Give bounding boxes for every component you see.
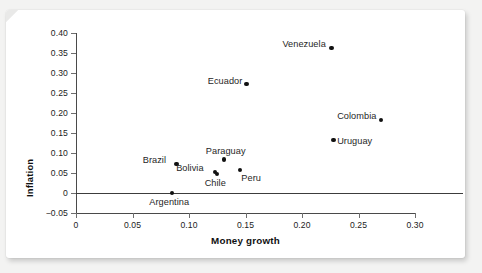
data-point-peru [238,168,242,172]
y-axis-tick [71,73,76,74]
y-axis-tick [71,93,76,94]
data-point-label-venezuela: Venezuela [282,39,325,49]
data-point-label-colombia: Colombia [337,111,376,121]
x-axis-tick [302,213,303,218]
x-axis-tick [359,213,360,218]
data-point-chile [215,172,219,176]
y-axis-tick-label: 0.30 [28,68,68,78]
x-axis-tick [246,213,247,218]
x-axis-tick-label: 0.30 [395,220,435,230]
y-axis-tick-label: 0 [28,188,68,198]
x-axis-tick-label: 0.25 [339,220,379,230]
y-axis-tick [71,113,76,114]
scatter-plot: Inflation Money growth −0.0500.050.100.1… [0,0,482,273]
y-axis-spine [76,33,77,213]
data-point-label-paraguay: Paraguay [206,146,246,156]
x-axis-tick-label: 0.15 [226,220,266,230]
x-axis-tick-label: 0 [56,220,96,230]
y-axis-tick-label: 0.05 [28,168,68,178]
x-axis-tick [133,213,134,218]
data-point-paraguay [222,157,226,161]
y-axis-tick [71,153,76,154]
data-point-label-ecuador: Ecuador [208,76,243,86]
data-point-label-argentina: Argentina [149,197,189,207]
data-point-uruguay [331,138,335,142]
y-axis-tick [71,173,76,174]
x-axis-tick [189,213,190,218]
y-axis-tick [71,193,76,194]
x-axis-tick [415,213,416,218]
y-axis-tick [71,133,76,134]
zero-reference-line [76,193,463,194]
y-axis-tick [71,53,76,54]
y-axis-tick-label: −0.05 [28,208,68,218]
x-axis-tick-label: 0.10 [169,220,209,230]
x-axis-tick-label: 0.05 [113,220,153,230]
y-axis-tick-label: 0.25 [28,88,68,98]
data-point-argentina [170,191,174,195]
data-point-label-chile: Chile [205,178,226,188]
data-point-label-brazil: Brazil [143,155,166,165]
data-point-label-uruguay: Uruguay [337,136,372,146]
y-axis-tick-label: 0.35 [28,48,68,58]
x-axis-tick-label: 0.20 [282,220,322,230]
y-axis-tick-label: 0.40 [28,28,68,38]
data-point-label-bolivia: Bolivia [176,163,203,173]
figure-background: Inflation Money growth −0.0500.050.100.1… [0,0,482,273]
y-axis-tick [71,33,76,34]
y-axis-tick-label: 0.15 [28,128,68,138]
y-axis-tick-label: 0.20 [28,108,68,118]
x-axis-label: Money growth [46,235,445,246]
data-point-label-peru: Peru [241,173,261,183]
data-point-ecuador [244,82,248,86]
data-point-venezuela [329,46,333,50]
y-axis-tick-label: 0.10 [28,148,68,158]
x-axis-tick [76,213,77,218]
data-point-colombia [379,118,383,122]
